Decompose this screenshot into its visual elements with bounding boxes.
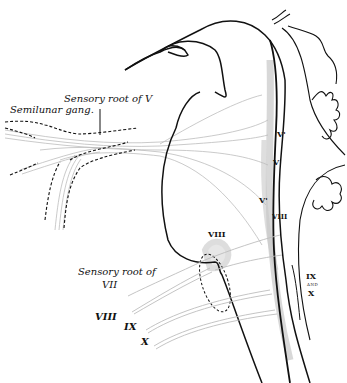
label-v-prime-top: V' (277, 130, 286, 138)
brainstem-drawing (0, 0, 347, 383)
label-ix-right: IX (306, 272, 316, 280)
label-viii-left: VIII (95, 312, 117, 322)
label-viii-top: VIII (208, 230, 225, 238)
label-v: V (273, 158, 279, 166)
label-x-right: X (308, 289, 314, 297)
label-v-prime-low: V' (259, 196, 268, 204)
trigeminal-fibers (5, 95, 268, 245)
label-vii: VII (102, 280, 117, 290)
label-x-left: X (141, 337, 149, 347)
anatomical-figure: Sensory root of V Semilunar gang. V' V V… (0, 0, 347, 383)
label-sensory-root-of: Sensory root of (78, 267, 156, 277)
label-ix-left: IX (124, 322, 136, 332)
label-and-right: AND (307, 283, 318, 287)
label-sensory-root-v: Sensory root of V (64, 94, 152, 104)
label-semilunar-ganglion: Semilunar gang. (10, 105, 94, 115)
label-viii-right: VIII (272, 213, 287, 220)
